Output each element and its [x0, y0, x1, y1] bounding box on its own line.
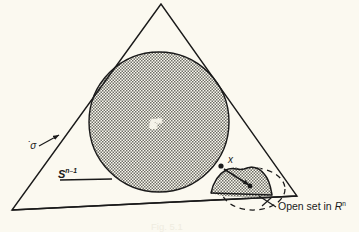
open-set-text: Open set in [278, 200, 335, 212]
open-set-label: Open set in Rn [278, 201, 346, 212]
sphere-label: Sn–1 [58, 169, 77, 180]
point-x-label: x [228, 155, 233, 165]
sigma-label: ˙σ [27, 141, 36, 151]
point-x-marker [218, 163, 223, 168]
figure-caption: Fig. 5.1 [151, 222, 183, 232]
disc-label: En [150, 119, 162, 130]
sigma-leader-line [39, 135, 59, 146]
figure-drawing [0, 0, 359, 232]
open-set-blob [211, 166, 272, 198]
figure-container: ˙σ Sn–1 En x Open set in Rn Fig. 5.1 [0, 0, 359, 232]
disc-exponent: n [157, 117, 161, 124]
sphere-exponent: n–1 [65, 167, 77, 174]
sigma-symbol: σ [30, 140, 36, 151]
base-edge-overlay [12, 196, 297, 210]
open-set-exponent: n [342, 200, 346, 207]
